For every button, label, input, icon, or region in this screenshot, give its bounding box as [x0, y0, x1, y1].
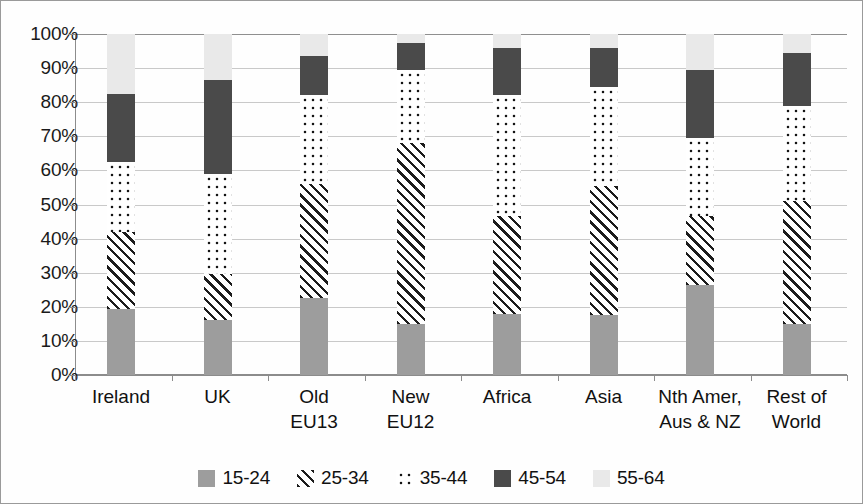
bar-stack	[493, 34, 521, 375]
legend-item[interactable]: 25-34	[297, 467, 369, 489]
y-axis-tick-mark	[68, 239, 75, 240]
bar-segment-15-24	[783, 324, 811, 375]
bar-segment-55-64	[686, 34, 714, 70]
bar-segment-25-34	[300, 184, 328, 298]
gridline-20	[75, 307, 847, 308]
bar-segment-25-34	[397, 143, 425, 324]
bar-stack	[107, 34, 135, 375]
x-axis-tick-mark	[461, 375, 462, 381]
bar-segment-25-34	[493, 216, 521, 313]
bar-segment-45-54	[300, 56, 328, 95]
x-axis-tick-mark	[75, 375, 76, 381]
y-axis-tick-mark	[68, 68, 75, 69]
y-axis-tick-mark	[68, 205, 75, 206]
gridline-70	[75, 136, 847, 137]
bar-stack	[204, 34, 232, 375]
bar-stack	[397, 34, 425, 375]
legend-label: 35-44	[420, 467, 468, 489]
chart-legend: 15-2425-3435-4445-5455-64	[1, 467, 862, 489]
bar-segment-15-24	[397, 324, 425, 375]
bar-segment-45-54	[493, 48, 521, 96]
bar-segment-15-24	[493, 314, 521, 375]
bar-segment-15-24	[300, 298, 328, 375]
x-axis-tick-mark	[172, 375, 173, 381]
bar-segment-35-44	[783, 106, 811, 201]
bar-segment-45-54	[204, 80, 232, 174]
gridline-100	[75, 34, 847, 35]
x-axis-tick-mark	[558, 375, 559, 381]
bar-segment-55-64	[300, 34, 328, 56]
bar-stack	[590, 34, 618, 375]
legend-item[interactable]: 35-44	[396, 467, 468, 489]
bar-segment-55-64	[783, 34, 811, 53]
bar-segment-55-64	[204, 34, 232, 80]
y-axis-tick-mark	[68, 136, 75, 137]
bar-segment-25-34	[204, 274, 232, 320]
bar-segment-35-44	[397, 70, 425, 143]
y-axis-tick-mark	[68, 273, 75, 274]
y-axis-tick-mark	[68, 341, 75, 342]
bar-stack	[686, 34, 714, 375]
x-axis-category-label: Rest of World	[737, 384, 857, 434]
bar-segment-25-34	[590, 186, 618, 316]
bar-segment-45-54	[107, 94, 135, 162]
legend-item[interactable]: 15-24	[198, 467, 270, 489]
y-axis-tick-mark	[68, 102, 75, 103]
legend-swatch-icon	[198, 470, 215, 487]
gridline-30	[75, 273, 847, 274]
x-axis-tick-mark	[847, 375, 848, 381]
bar-segment-45-54	[397, 43, 425, 70]
bar-segment-55-64	[397, 34, 425, 43]
y-axis-tick-mark	[68, 170, 75, 171]
gridline-60	[75, 170, 847, 171]
bar-segment-55-64	[493, 34, 521, 48]
y-axis-tick-mark	[68, 375, 75, 376]
bar-segment-25-34	[686, 216, 714, 284]
legend-label: 25-34	[321, 467, 369, 489]
legend-swatch-icon	[593, 470, 610, 487]
bar-stack	[783, 34, 811, 375]
bar-segment-35-44	[300, 95, 328, 184]
bar-segment-35-44	[107, 162, 135, 232]
x-axis-tick-mark	[365, 375, 366, 381]
legend-item[interactable]: 55-64	[593, 467, 665, 489]
legend-item[interactable]: 45-54	[494, 467, 566, 489]
legend-swatch-icon	[396, 470, 413, 487]
bar-segment-25-34	[783, 201, 811, 324]
x-axis-tick-mark	[654, 375, 655, 381]
gridline-10	[75, 341, 847, 342]
plot-area	[75, 34, 847, 375]
y-axis-tick-mark	[68, 307, 75, 308]
x-axis-tick-mark	[268, 375, 269, 381]
chart-figure: 100%90%80%70%60%50%40%30%20%10%0% Irelan…	[0, 0, 863, 504]
gridline-90	[75, 68, 847, 69]
bar-segment-35-44	[204, 174, 232, 275]
gridline-50	[75, 205, 847, 206]
bar-segment-55-64	[590, 34, 618, 48]
bar-segment-15-24	[686, 285, 714, 375]
bar-segment-45-54	[783, 53, 811, 106]
bar-segment-55-64	[107, 34, 135, 94]
bar-segment-45-54	[590, 48, 618, 87]
bar-segment-35-44	[590, 87, 618, 186]
y-axis-tick-mark	[68, 34, 75, 35]
legend-swatch-icon	[494, 470, 511, 487]
legend-label: 55-64	[617, 467, 665, 489]
gridline-80	[75, 102, 847, 103]
x-axis-tick-mark	[751, 375, 752, 381]
bar-segment-15-24	[590, 315, 618, 375]
bar-segment-15-24	[204, 320, 232, 375]
bar-segment-15-24	[107, 309, 135, 375]
bar-segment-25-34	[107, 232, 135, 309]
gridline-40	[75, 239, 847, 240]
legend-label: 15-24	[222, 467, 270, 489]
bar-stack	[300, 34, 328, 375]
bar-segment-35-44	[493, 95, 521, 216]
bar-segment-35-44	[686, 138, 714, 216]
legend-swatch-icon	[297, 470, 314, 487]
bar-segment-45-54	[686, 70, 714, 138]
legend-label: 45-54	[518, 467, 566, 489]
